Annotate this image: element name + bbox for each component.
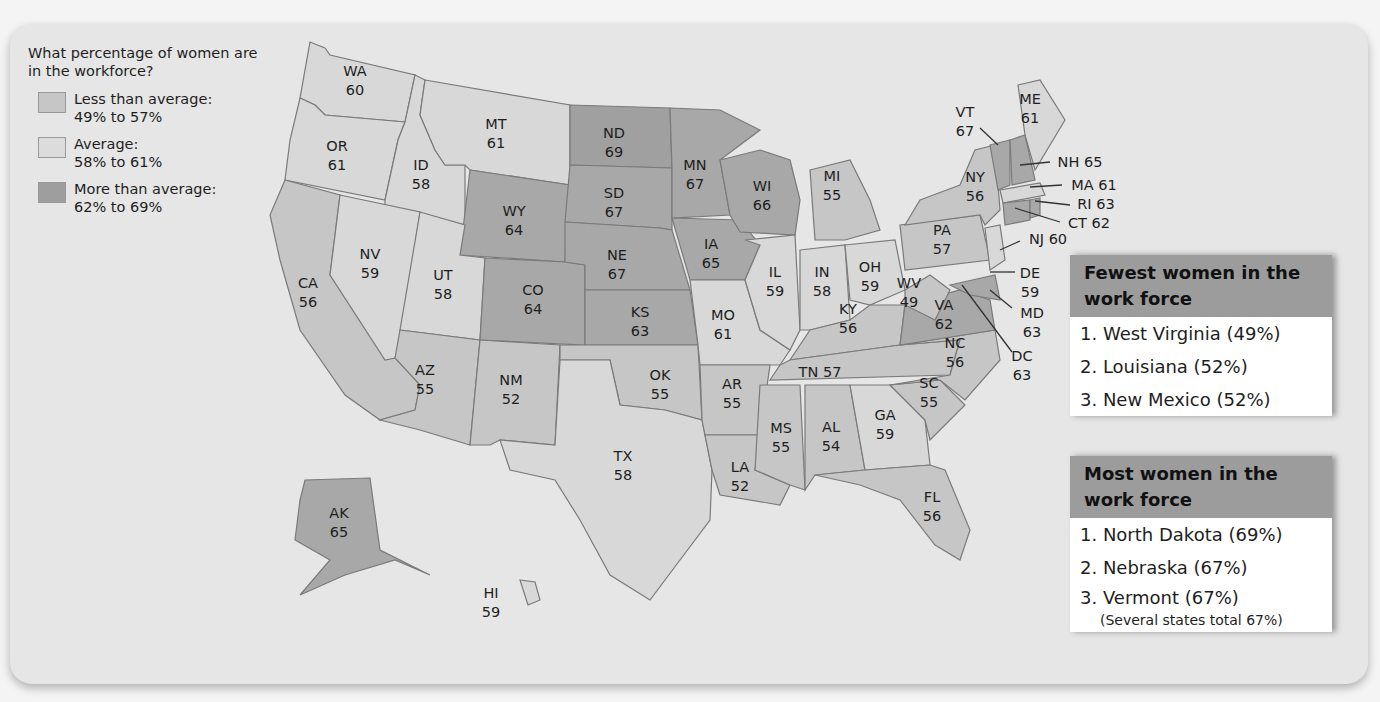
state-label-VA: VA62 xyxy=(935,296,954,334)
state-label-CO: CO64 xyxy=(522,281,544,319)
state-label-NM: NM52 xyxy=(499,371,522,409)
state-label-HI: HI59 xyxy=(482,584,500,622)
state-label-KY: KY56 xyxy=(839,300,857,338)
fewest-title: Fewest women in the work force xyxy=(1070,255,1332,317)
state-label-CA: CA56 xyxy=(298,274,318,312)
state-shape-AK xyxy=(295,478,430,595)
state-label-MD: MD63 xyxy=(1020,304,1044,342)
state-label-FL: FL56 xyxy=(923,488,941,526)
state-label-NH: NH 65 xyxy=(1058,153,1103,172)
state-shape-NY xyxy=(905,145,1000,225)
state-label-DC: DC63 xyxy=(1011,347,1032,385)
state-label-MS: MS55 xyxy=(770,419,792,457)
state-label-OH: OH59 xyxy=(859,258,881,296)
state-label-AL: AL54 xyxy=(822,418,840,456)
state-label-DE: DE59 xyxy=(1020,264,1040,302)
state-label-AR: AR55 xyxy=(722,375,742,413)
state-label-MA: MA 61 xyxy=(1071,176,1117,195)
most-women-box: Most women in the work force 1. North Da… xyxy=(1070,456,1332,632)
most-item: 2. Nebraska (67%) xyxy=(1070,551,1332,584)
state-label-WA: WA60 xyxy=(343,62,366,100)
state-shape-FL xyxy=(815,465,970,560)
state-label-VT: VT67 xyxy=(956,103,975,141)
state-label-IN: IN58 xyxy=(813,263,831,301)
state-label-WY: WY64 xyxy=(502,202,525,240)
state-shape-CT xyxy=(1003,200,1030,225)
most-item: 1. North Dakota (69%) xyxy=(1070,518,1332,551)
state-label-WI: WI66 xyxy=(753,177,772,215)
state-label-IA: IA65 xyxy=(702,235,720,273)
state-label-AZ: AZ55 xyxy=(415,361,435,399)
state-label-WV: WV49 xyxy=(897,274,921,312)
state-label-NJ: NJ 60 xyxy=(1029,230,1067,249)
state-label-SD: SD67 xyxy=(604,184,624,222)
state-label-ME: ME61 xyxy=(1019,90,1041,128)
state-label-PA: PA57 xyxy=(933,221,951,259)
state-label-OK: OK55 xyxy=(650,366,671,404)
state-label-TN: TN 57 xyxy=(799,363,842,382)
state-label-GA: GA59 xyxy=(874,406,895,444)
state-shape-MI xyxy=(810,160,880,240)
state-shape-NJ xyxy=(985,225,1005,270)
state-label-MN: MN67 xyxy=(683,156,706,194)
state-label-MI: MI55 xyxy=(823,167,841,205)
fewest-item: 2. Louisiana (52%) xyxy=(1070,350,1332,383)
state-label-LA: LA52 xyxy=(731,458,749,496)
state-label-NC: NC56 xyxy=(945,334,966,372)
most-note: (Several states total 67%) xyxy=(1070,612,1332,632)
state-label-ND: ND69 xyxy=(603,124,625,162)
state-label-ID: ID58 xyxy=(412,156,430,194)
state-label-NV: NV59 xyxy=(360,245,381,283)
state-label-IL: IL59 xyxy=(766,263,784,301)
state-label-CT: CT 62 xyxy=(1068,214,1110,233)
state-label-MO: MO61 xyxy=(711,306,735,344)
state-label-SC: SC55 xyxy=(919,374,938,412)
fewest-women-box: Fewest women in the work force 1. West V… xyxy=(1070,255,1332,416)
state-label-UT: UT58 xyxy=(433,266,452,304)
state-label-OR: OR61 xyxy=(326,137,348,175)
fewest-item: 1. West Virginia (49%) xyxy=(1070,317,1332,350)
most-title: Most women in the work force xyxy=(1070,456,1332,518)
state-label-KS: KS63 xyxy=(631,303,650,341)
state-label-AK: AK65 xyxy=(329,504,348,542)
state-label-TX: TX58 xyxy=(614,447,633,485)
state-label-NE: NE67 xyxy=(607,246,627,284)
state-label-NY: NY56 xyxy=(965,168,985,206)
state-label-MT: MT61 xyxy=(485,115,506,153)
state-label-RI: RI 63 xyxy=(1077,195,1114,214)
fewest-item: 3. New Mexico (52%) xyxy=(1070,383,1332,416)
state-shape-HI xyxy=(520,580,540,605)
most-item: 3. Vermont (67%) xyxy=(1070,584,1332,612)
